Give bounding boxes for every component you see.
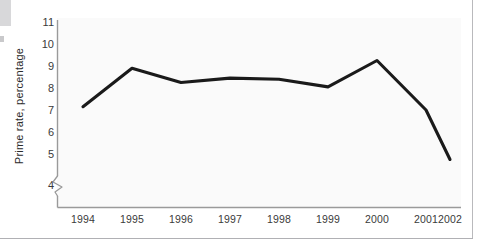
screenshot-page: Prime rate, percentage 11 10 9 8 7 6 5 4… <box>0 0 493 250</box>
y-axis-break-icon <box>53 176 62 196</box>
chart-plot-svg <box>0 0 473 238</box>
line-chart: Prime rate, percentage 11 10 9 8 7 6 5 4… <box>0 0 473 238</box>
data-series-line <box>83 61 450 160</box>
page-border-bottom <box>0 238 473 239</box>
